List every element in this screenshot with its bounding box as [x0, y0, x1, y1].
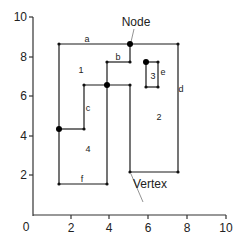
nodes [56, 41, 149, 132]
face-2: 2 [156, 112, 161, 122]
node-left [56, 126, 62, 132]
y-tick-labels: 10 8 6 4 2 [14, 10, 28, 182]
label-c: c [86, 103, 91, 113]
label-b: b [115, 52, 120, 62]
node-leader [131, 29, 134, 42]
node-loop [143, 59, 149, 65]
label-f: f [81, 174, 84, 184]
face-3: 3 [150, 71, 155, 81]
y-tick-10: 10 [14, 10, 28, 24]
x-tick-labels: 0 2 4 6 8 10 [23, 220, 233, 235]
face-4: 4 [85, 144, 90, 154]
x-tick-4: 4 [106, 221, 113, 235]
y-tick-6: 6 [20, 89, 27, 103]
node-annotation: Node [122, 15, 151, 29]
x-tick-8: 8 [184, 221, 191, 235]
y-tick-8: 8 [20, 50, 27, 64]
label-e: e [160, 67, 165, 77]
vertex-annotation: Vertex [133, 177, 167, 191]
face-1: 1 [78, 65, 83, 75]
origin-label: 0 [23, 220, 30, 234]
edge-labels: a b c d e f [81, 34, 184, 184]
node-middle [104, 82, 110, 88]
x-tick-10: 10 [219, 221, 233, 235]
label-d: d [178, 84, 183, 94]
y-tick-2: 2 [20, 168, 27, 182]
x-tick-6: 6 [145, 221, 152, 235]
x-tick-2: 2 [68, 221, 75, 235]
label-a: a [84, 34, 89, 44]
planar-graph-figure: 10 8 6 4 2 0 2 4 6 8 10 [0, 0, 245, 248]
node-top [127, 41, 133, 47]
face-labels: 1 2 3 4 [78, 65, 161, 154]
y-tick-4: 4 [20, 129, 27, 143]
